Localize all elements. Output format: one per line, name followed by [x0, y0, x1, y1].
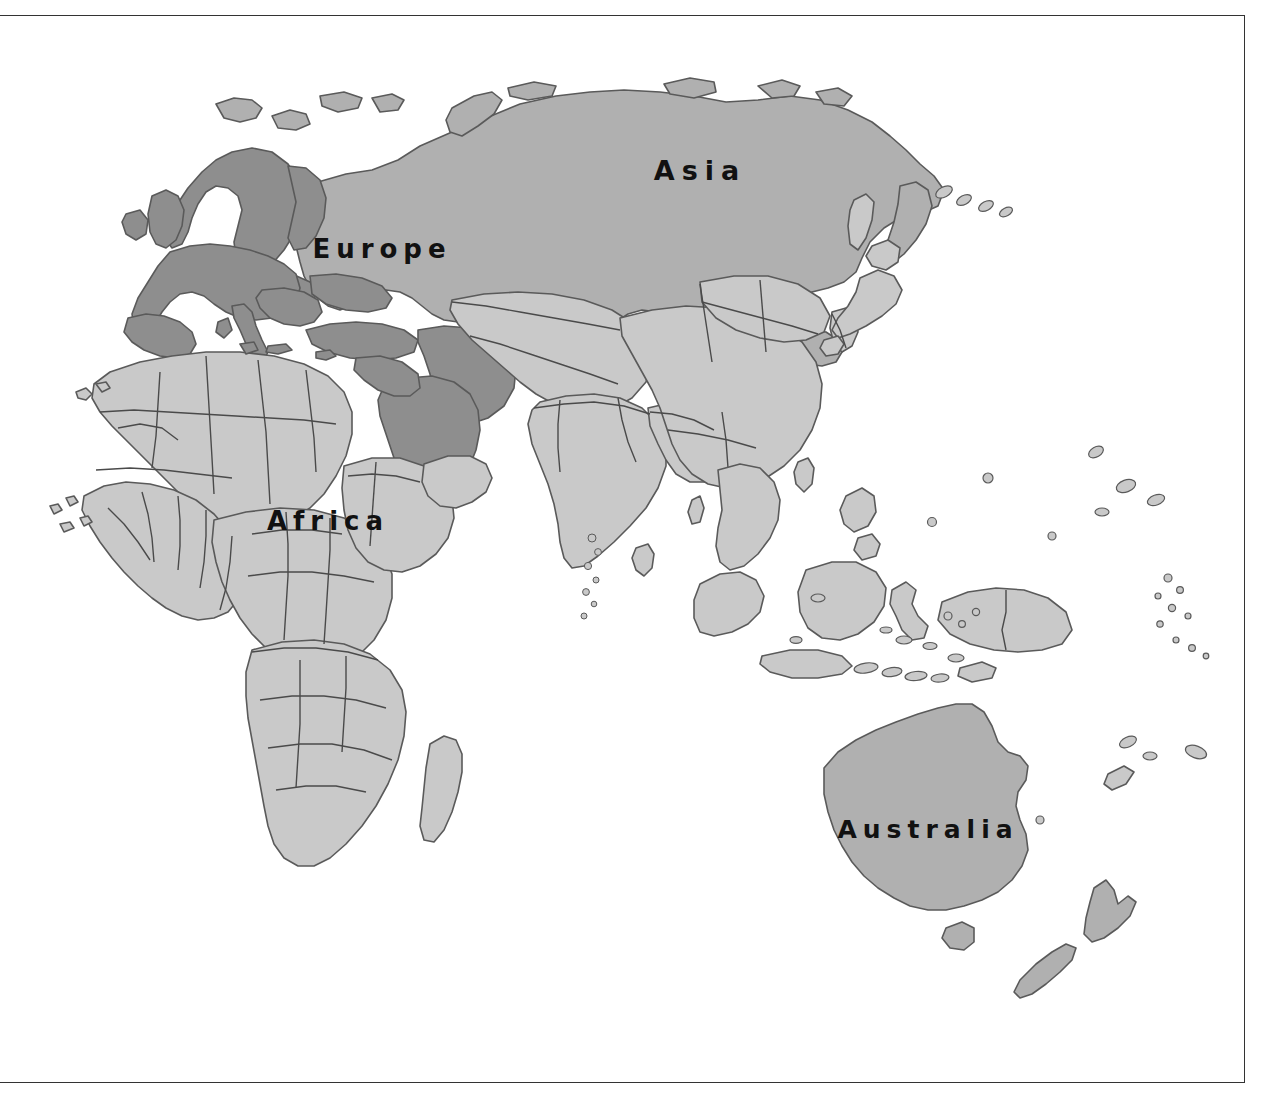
label-asia: Asia — [654, 155, 746, 186]
label-africa: Africa — [267, 506, 389, 536]
map-page: Asia Europe Africa Australia — [0, 0, 1278, 1113]
world-map: Asia Europe Africa Australia — [0, 0, 1278, 1113]
label-europe: Europe — [312, 234, 451, 264]
island-philippines-south — [854, 534, 880, 560]
label-australia: Australia — [837, 815, 1018, 844]
